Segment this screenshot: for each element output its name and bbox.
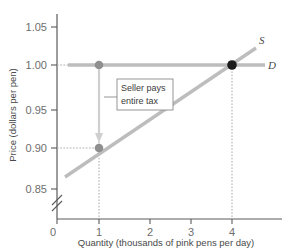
point-1-090 xyxy=(95,144,104,153)
annotation-line-1: Seller pays xyxy=(121,83,166,93)
y-axis-title: Price (dollars per pen) xyxy=(7,68,18,161)
y-tick-label-095: 0.95 xyxy=(26,104,47,116)
x-axis-title: Quantity (thousands of pink pens per day… xyxy=(78,237,254,248)
y-tick-label-090: 0.90 xyxy=(26,142,47,154)
y-tick-label-105: 1.05 xyxy=(26,21,47,33)
demand-label: D xyxy=(267,59,276,71)
supply-label: S xyxy=(259,34,265,46)
annotation-line-2: entire tax xyxy=(121,96,159,106)
y-tick-label-085: 0.85 xyxy=(26,183,47,195)
y-tick-label-100: 1.00 xyxy=(26,59,47,71)
point-1-100 xyxy=(95,61,104,70)
point-4-100 xyxy=(227,60,237,70)
x-tick-label-0: 0 xyxy=(50,226,56,238)
supply-demand-tax-chart: Seller pays entire tax S D 1.05 1.00 0.9… xyxy=(0,0,287,249)
chart-canvas: Seller pays entire tax S D 1.05 1.00 0.9… xyxy=(0,0,287,249)
